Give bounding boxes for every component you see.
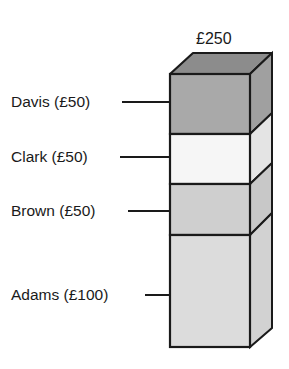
label-adams: Adams (£100) bbox=[11, 287, 108, 303]
segment-adams bbox=[170, 235, 250, 347]
label-davis: Davis (£50) bbox=[11, 94, 90, 110]
label-brown: Brown (£50) bbox=[11, 203, 95, 219]
segment-clark bbox=[170, 134, 250, 184]
segment-davis bbox=[170, 74, 250, 134]
side-face-adams bbox=[250, 213, 272, 347]
label-clark: Clark (£50) bbox=[11, 149, 88, 165]
segment-brown bbox=[170, 184, 250, 235]
stacked-cube-diagram bbox=[0, 0, 289, 369]
